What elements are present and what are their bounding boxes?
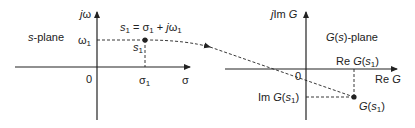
omega1-label: ω1: [78, 34, 92, 48]
re-g-axis-label: Re G: [375, 73, 401, 85]
g-plane-y-axis-label: jIm G: [269, 8, 298, 20]
mapping-curve-continued: [210, 47, 354, 97]
mapping-diagram: jω s-plane ω1 0 σ1 σ s1 s1 = σ1 + jω1 jI…: [0, 0, 415, 128]
s1-equation: s1 = σ1 + jω1: [120, 21, 182, 35]
g-s1-point-label: G(s1): [359, 100, 385, 114]
s1-point-label: s1: [133, 41, 144, 55]
mapping-curve: [145, 40, 210, 47]
g-plane-title: G(s)-plane: [326, 31, 378, 43]
s-plane: jω s-plane ω1 0 σ1 σ s1 s1 = σ1 + jω1: [15, 8, 190, 120]
s-plane-origin-label: 0: [86, 73, 92, 85]
im-g-s1-label: Im G(s1): [258, 91, 299, 105]
s-plane-y-axis-label: jω: [78, 8, 91, 20]
sigma-axis-label: σ: [182, 74, 189, 86]
g-plane-origin-label: 0: [295, 70, 301, 82]
s-plane-title: s-plane: [28, 31, 64, 43]
g-s1-point: [351, 94, 356, 99]
g-plane: jIm G G(s)-plane 0 Re G(s1) Re G Im G(s1…: [225, 8, 401, 120]
sigma1-label: σ1: [139, 74, 151, 88]
re-g-s1-label: Re G(s1): [336, 55, 379, 69]
